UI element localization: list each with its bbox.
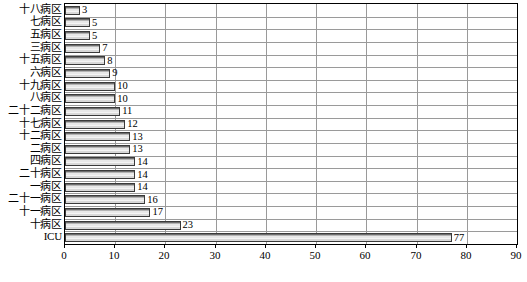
category-label: 七病区 (0, 16, 62, 27)
bar-value-label: 12 (127, 119, 138, 130)
horizontal-gridline (65, 67, 517, 68)
vertical-gridline (366, 4, 367, 244)
horizontal-gridline (65, 231, 517, 232)
x-axis-tick (64, 244, 65, 248)
bar (65, 120, 125, 129)
bar (65, 94, 115, 103)
bar-value-label: 14 (137, 157, 148, 168)
x-axis-tick-label: 50 (310, 250, 321, 261)
category-label: 五病区 (0, 29, 62, 40)
horizontal-gridline (65, 17, 517, 18)
x-axis-tick-label: 30 (210, 250, 221, 261)
x-axis-tick (466, 244, 467, 248)
bar (65, 195, 145, 204)
bar (65, 183, 135, 192)
x-axis-labels: 0102030405060708090 (0, 250, 527, 266)
x-axis-tick-label: 0 (61, 250, 67, 261)
x-axis-tick (265, 244, 266, 248)
bar-value-label: 5 (92, 31, 97, 42)
bar (65, 233, 452, 242)
x-axis-tick-label: 70 (411, 250, 422, 261)
vertical-gridline (266, 4, 267, 244)
bar (65, 82, 115, 91)
bar-chart: 十八病区七病区五病区三病区十五病区六病区十九病区八病区二十二病区十七病区十二病区… (0, 0, 527, 282)
x-axis-tick-label: 40 (260, 250, 271, 261)
bar-value-label: 3 (82, 5, 87, 16)
bar (65, 56, 105, 65)
bar-value-label: 10 (117, 94, 128, 105)
category-label: 二十一病区 (0, 193, 62, 204)
x-axis-tick-label: 20 (159, 250, 170, 261)
horizontal-gridline (65, 29, 517, 30)
x-axis-tick (365, 244, 366, 248)
vertical-gridline (417, 4, 418, 244)
category-label: 十二病区 (0, 130, 62, 141)
category-label: 二病区 (0, 143, 62, 154)
bar (65, 31, 90, 40)
bar-value-label: 5 (92, 18, 97, 29)
horizontal-gridline (65, 105, 517, 106)
x-axis-tick (164, 244, 165, 248)
bar-value-label: 23 (183, 220, 194, 231)
bar (65, 145, 130, 154)
bar-value-label: 10 (117, 81, 128, 92)
bar-value-label: 9 (112, 68, 117, 79)
x-axis-tick-label: 10 (109, 250, 120, 261)
bar (65, 69, 110, 78)
category-label: 十五病区 (0, 54, 62, 65)
bar (65, 170, 135, 179)
bar-value-label: 16 (147, 195, 158, 206)
vertical-gridline (165, 4, 166, 244)
bar-value-label: 11 (122, 106, 132, 117)
vertical-gridline (467, 4, 468, 244)
x-axis-tick (416, 244, 417, 248)
bar-value-label: 13 (132, 132, 143, 143)
plot-inner: 35578910101112131314141416172377 (65, 4, 517, 244)
vertical-gridline (216, 4, 217, 244)
bar-value-label: 7 (102, 43, 107, 54)
bar (65, 221, 181, 230)
horizontal-gridline (65, 42, 517, 43)
vertical-gridline (316, 4, 317, 244)
category-label: 三病区 (0, 42, 62, 53)
category-label: 十九病区 (0, 80, 62, 91)
bar (65, 157, 135, 166)
category-label: 十一病区 (0, 206, 62, 217)
horizontal-gridline (65, 80, 517, 81)
category-label: 二十二病区 (0, 105, 62, 116)
x-axis-tick-label: 80 (461, 250, 472, 261)
bar (65, 208, 150, 217)
category-label: 二十病区 (0, 168, 62, 179)
category-label: 十病区 (0, 219, 62, 230)
bar-value-label: 13 (132, 144, 143, 155)
x-axis-tick-label: 60 (360, 250, 371, 261)
bar-value-label: 8 (107, 56, 112, 67)
category-axis-labels: 十八病区七病区五病区三病区十五病区六病区十九病区八病区二十二病区十七病区十二病区… (0, 3, 62, 243)
horizontal-gridline (65, 92, 517, 93)
category-label: 一病区 (0, 181, 62, 192)
x-axis-tick (215, 244, 216, 248)
x-axis-tick-label: 90 (511, 250, 522, 261)
horizontal-gridline (65, 206, 517, 207)
bar-value-label: 14 (137, 170, 148, 181)
bar (65, 18, 90, 27)
bar-value-label: 17 (152, 207, 163, 218)
plot-area: 35578910101112131314141416172377 (64, 3, 518, 245)
category-label: ICU (0, 231, 62, 242)
category-label: 六病区 (0, 67, 62, 78)
category-label: 四病区 (0, 155, 62, 166)
x-axis-ticks (64, 244, 517, 249)
category-label: 十七病区 (0, 118, 62, 129)
bar (65, 44, 100, 53)
horizontal-gridline (65, 55, 517, 56)
bar-value-label: 14 (137, 182, 148, 193)
bar (65, 132, 130, 141)
bar (65, 107, 120, 116)
x-axis-tick (114, 244, 115, 248)
category-label: 八病区 (0, 92, 62, 103)
bar-value-label: 77 (454, 233, 465, 244)
x-axis-tick (516, 244, 517, 248)
horizontal-gridline (65, 193, 517, 194)
bar (65, 6, 80, 15)
x-axis-tick (315, 244, 316, 248)
